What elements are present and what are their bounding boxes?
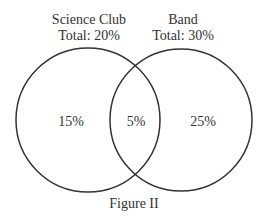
- venn-circles: [0, 0, 268, 217]
- figure-caption: Figure II: [0, 196, 268, 212]
- science-only-value: 15%: [58, 114, 84, 130]
- both-value: 5%: [127, 114, 146, 130]
- band-only-value: 25%: [190, 114, 216, 130]
